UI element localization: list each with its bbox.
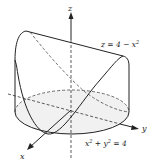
z-axis-label: z [67,4,73,13]
z-axis-arrow-icon [69,12,74,19]
y-axis-label: y [141,124,147,133]
cylinder-equation-label: x2 + y2 = 4 [85,138,127,148]
surface-equation-label: z = 4 − x2 [100,39,139,49]
y-axis-arrow-icon [131,125,139,130]
solid-diagram: z y x z = 4 − x2 x2 + y2 = 4 [0,0,152,168]
x-axis-label: x [20,152,25,161]
